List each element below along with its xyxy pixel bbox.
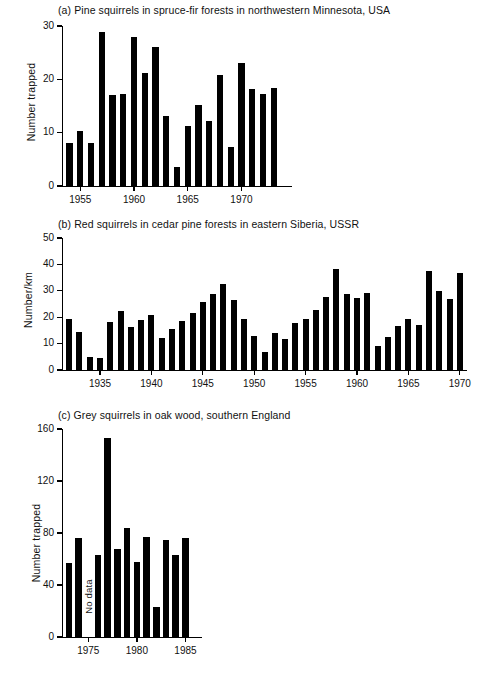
y-axis-tick [57,237,62,238]
y-axis-tick-label: 10 [14,337,54,348]
bar [109,95,115,186]
x-axis-tick-label: 1940 [131,378,171,389]
y-axis-line [62,26,63,186]
y-axis-tick-label: 30 [14,284,54,295]
bar [416,325,422,370]
bar [142,73,148,186]
y-axis-tick-label: 50 [14,232,54,243]
y-axis-tick-label: 0 [14,364,54,375]
y-axis-tick-label: 20 [14,311,54,322]
no-data-annotation: No data [83,572,94,622]
y-axis-tick-label: 20 [14,73,54,84]
x-axis-tick-label: 1945 [183,378,223,389]
x-axis-tick-label: 1950 [234,378,274,389]
bar [238,63,244,186]
bar [220,284,226,370]
x-axis-tick-label: 1980 [117,645,157,656]
y-axis-tick [57,584,62,585]
y-axis-tick [57,369,62,370]
bar [231,300,237,370]
bar [436,291,442,370]
bar [217,75,223,186]
bar [260,94,266,186]
x-axis-tick [185,637,186,642]
bar [114,549,121,637]
bar [131,37,137,186]
y-axis-tick-label: 0 [14,180,54,191]
bar [210,294,216,370]
x-axis-tick [136,637,137,642]
bar [182,538,189,637]
bar [148,315,154,370]
x-axis-tick [459,370,460,375]
y-axis-tick-label: 10 [14,126,54,137]
x-axis-line [62,186,292,187]
bar [249,89,255,186]
x-axis-line [62,637,202,638]
y-axis-tick-label: 40 [14,258,54,269]
y-axis-tick [57,264,62,265]
bar [354,298,360,370]
x-axis-tick [88,637,89,642]
bar [66,563,73,637]
bar [303,319,309,370]
x-axis-tick [133,186,134,191]
panel-c: (c) Grey squirrels in oak wood, southern… [0,407,494,679]
panel-c-plot-area: 04080120160197519801985No data [62,429,202,637]
panel-b: (b) Red squirrels in cedar pine forests … [0,212,494,407]
y-axis-tick [57,25,62,26]
x-axis-tick [356,370,357,375]
y-axis-tick-label: 40 [14,579,54,590]
bar [169,329,175,370]
y-axis-tick [57,532,62,533]
x-axis-tick [80,186,81,191]
bar [282,339,288,370]
y-axis-tick [57,185,62,186]
bar [179,321,185,370]
bar [66,319,72,370]
bar [190,313,196,370]
bar [344,294,350,370]
bar [172,555,179,637]
bar [128,327,134,370]
y-axis-tick-label: 30 [14,20,54,31]
y-axis-tick-label: 160 [14,423,54,434]
x-axis-tick [202,370,203,375]
x-axis-tick-label: 1975 [68,645,108,656]
bar [364,293,370,370]
bar [163,116,169,186]
bar [159,338,165,370]
bar [138,320,144,370]
panel-a-caption: (a) Pine squirrels in spruce-fir forests… [58,4,390,16]
bar [426,271,432,370]
panel-c-caption: (c) Grey squirrels in oak wood, southern… [58,409,290,421]
bar [153,607,160,637]
panel-a: (a) Pine squirrels in spruce-fir forests… [0,0,494,212]
bar [87,357,93,370]
x-axis-line [62,370,467,371]
panel-a-ylabel: Number trapped [25,47,37,157]
bar [104,438,111,637]
bar [313,310,319,370]
bar [271,88,277,186]
x-axis-tick-label: 1960 [337,378,377,389]
x-axis-tick-label: 1955 [286,378,326,389]
x-axis-tick-label: 1970 [221,194,261,205]
x-axis-tick [187,186,188,191]
bar [323,297,329,370]
bar [228,147,234,186]
y-axis-tick-label: 80 [14,527,54,538]
bar [185,126,191,186]
bar [152,47,158,186]
bar [375,346,381,370]
y-axis-line [62,429,63,637]
bar [66,143,72,186]
x-axis-tick [305,370,306,375]
bar [77,131,83,186]
y-axis-tick [57,132,62,133]
bar [272,333,278,370]
y-axis-tick [57,290,62,291]
bar [107,322,113,370]
bar [143,537,150,637]
bar [385,337,391,370]
